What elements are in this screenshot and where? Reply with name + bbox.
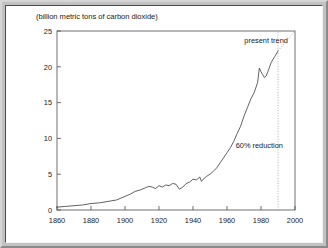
y-axis-tick-labels: 0510152025 bbox=[44, 27, 52, 215]
x-tick-label: 1880 bbox=[83, 216, 99, 225]
figure-panel: (billion metric tons of carbon dioxide) … bbox=[7, 7, 321, 241]
y-tick-label: 25 bbox=[44, 27, 52, 36]
x-axis-tick-labels: 18601880190019201940196019802000 bbox=[49, 216, 303, 225]
plot-frame bbox=[57, 31, 295, 210]
annotation-reduction: 60% reduction bbox=[236, 141, 283, 150]
chart-screenshot: (billion metric tons of carbon dioxide) … bbox=[0, 0, 328, 248]
axes-group bbox=[57, 31, 295, 210]
x-tick-label: 2000 bbox=[287, 216, 303, 225]
y-tick-label: 0 bbox=[48, 206, 52, 215]
y-tick-label: 10 bbox=[44, 134, 52, 143]
x-tick-label: 1900 bbox=[117, 216, 133, 225]
x-tick-label: 1960 bbox=[219, 216, 235, 225]
series-global-co2-emissions bbox=[57, 51, 278, 207]
y-tick-label: 20 bbox=[44, 63, 52, 72]
tick-marks-group bbox=[57, 31, 295, 210]
chart-annotations-group: present trend60% reduction bbox=[236, 36, 288, 150]
x-tick-label: 1980 bbox=[253, 216, 269, 225]
data-series-group bbox=[57, 31, 295, 210]
x-tick-label: 1940 bbox=[185, 216, 201, 225]
x-tick-label: 1920 bbox=[151, 216, 167, 225]
x-tick-label: 1860 bbox=[49, 216, 65, 225]
annotation-present_trend: present trend bbox=[244, 36, 288, 45]
chart-plot-area: 0510152025 18601880190019201940196019802… bbox=[7, 7, 321, 241]
y-tick-label: 5 bbox=[48, 170, 52, 179]
y-tick-label: 15 bbox=[44, 98, 52, 107]
